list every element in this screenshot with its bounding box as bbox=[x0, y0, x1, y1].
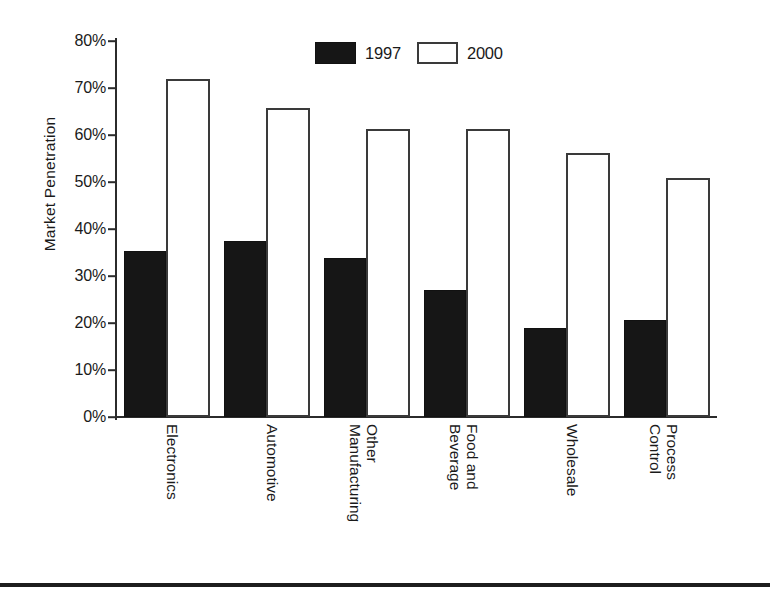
y-axis-tick-mark bbox=[108, 228, 115, 230]
y-axis-tick-mark bbox=[108, 134, 115, 136]
x-axis-category-label: Electronics bbox=[164, 424, 181, 594]
bar-group bbox=[515, 41, 615, 417]
x-axis-category-label: Food and Beverage bbox=[447, 424, 480, 594]
y-axis-tick-mark bbox=[108, 416, 115, 418]
bar-2000-wholesale bbox=[566, 153, 610, 417]
x-axis-category-label: Other Manufacturing bbox=[347, 424, 380, 594]
bar-group bbox=[115, 41, 215, 417]
legend-swatch-icon-1997 bbox=[315, 42, 356, 64]
x-axis-category-label: Wholesale bbox=[564, 424, 581, 594]
y-axis-tick-mark bbox=[108, 369, 115, 371]
bar-1997-other-manufacturing bbox=[324, 258, 366, 417]
bar-group bbox=[315, 41, 415, 417]
bar-group bbox=[615, 41, 715, 417]
x-axis-category-label: Automotive bbox=[264, 424, 281, 594]
bar-2000-electronics bbox=[166, 79, 210, 417]
bar-2000-other-manufacturing bbox=[366, 129, 410, 417]
y-axis-tick-mark bbox=[108, 322, 115, 324]
bar-chart-figure: Market Penetration 0%10%20%30%40%50%60%7… bbox=[0, 0, 770, 594]
plot-area: 0%10%20%30%40%50%60%70%80% bbox=[115, 41, 715, 417]
y-axis-title: Market Penetration bbox=[41, 74, 59, 294]
bar-1997-automotive bbox=[224, 241, 266, 417]
bar-group bbox=[415, 41, 515, 417]
y-axis-tick-mark bbox=[108, 181, 115, 183]
bar-2000-automotive bbox=[266, 108, 310, 418]
bar-2000-process-control bbox=[666, 178, 710, 417]
legend-label-1997: 1997 bbox=[365, 44, 401, 63]
y-axis-tick-mark bbox=[108, 40, 115, 42]
bar-1997-process-control bbox=[624, 320, 666, 417]
bar-1997-electronics bbox=[124, 251, 166, 418]
bar-1997-food-and-beverage bbox=[424, 290, 466, 417]
legend-label-2000: 2000 bbox=[467, 44, 503, 63]
bar-1997-wholesale bbox=[524, 328, 566, 417]
y-axis-tick-mark bbox=[108, 87, 115, 89]
legend-swatch-icon-2000 bbox=[417, 42, 458, 64]
bar-2000-food-and-beverage bbox=[466, 129, 510, 417]
chart-legend: 1997 2000 bbox=[315, 42, 503, 64]
y-axis-tick-mark bbox=[108, 275, 115, 277]
x-axis-category-label: Process Control bbox=[647, 424, 680, 594]
legend-entry-2000: 2000 bbox=[417, 42, 503, 64]
legend-entry-1997: 1997 bbox=[315, 42, 401, 64]
bar-group bbox=[215, 41, 315, 417]
